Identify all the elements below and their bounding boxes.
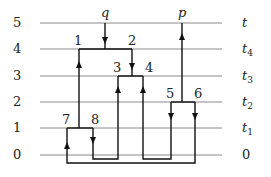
braid-diagram: 5 4 3 2 1 0 t t4 t3 t2 t1 0 q p: [0, 0, 271, 177]
right-label-t: t: [242, 15, 248, 30]
node-labels: 1 2 3 4 5 6 7 8: [62, 33, 202, 127]
arrow-up-4: [140, 86, 146, 93]
node-label-3: 3: [113, 60, 121, 75]
node-label-6: 6: [194, 86, 202, 101]
arrow-down-q: [102, 37, 108, 44]
node-label-8: 8: [91, 112, 99, 127]
node-label-7: 7: [62, 112, 70, 127]
arrow-up-3: [115, 86, 121, 93]
right-label-t1: t1: [242, 120, 253, 137]
arrow-down-2: [129, 63, 135, 70]
arrow-down-5: [168, 113, 174, 120]
arrow-up-p: [179, 33, 185, 40]
left-label-3: 3: [13, 68, 21, 83]
input-label-q: q: [101, 5, 109, 20]
left-label-5: 5: [13, 15, 21, 30]
arrow-up-7: [64, 142, 70, 149]
left-labels: 5 4 3 2 1 0: [13, 15, 21, 162]
input-label-p: p: [178, 5, 187, 20]
node-label-2: 2: [128, 33, 136, 48]
arrow-down-8: [90, 137, 96, 144]
right-label-t4: t4: [242, 41, 253, 58]
right-label-t2: t2: [242, 94, 253, 111]
right-label-0: 0: [242, 147, 250, 162]
arrow-down-6: [192, 113, 198, 120]
node-label-5: 5: [166, 86, 174, 101]
left-label-1: 1: [13, 120, 21, 135]
loop-6-7: [67, 102, 195, 163]
node-label-1: 1: [74, 33, 82, 48]
right-label-t3: t3: [242, 68, 253, 85]
left-label-4: 4: [13, 41, 21, 56]
left-label-0: 0: [13, 147, 21, 162]
arrow-up-1: [76, 61, 82, 68]
right-labels: t t4 t3 t2 t1 0: [242, 15, 253, 162]
left-label-2: 2: [13, 94, 21, 109]
arrows: [64, 33, 198, 149]
node-label-4: 4: [145, 60, 153, 75]
